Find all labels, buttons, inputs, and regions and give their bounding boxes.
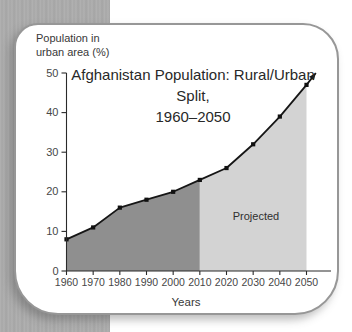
x-axis-title: Years xyxy=(66,296,306,308)
data-point-marker xyxy=(91,225,95,229)
x-tick-label: 2000 xyxy=(161,276,185,288)
chart-title-line2: 1960–2050 xyxy=(62,106,324,127)
x-tick-label: 2030 xyxy=(241,276,265,288)
data-point-marker xyxy=(171,190,175,194)
historical-area xyxy=(67,180,200,271)
y-tick-label: 10 xyxy=(46,225,58,237)
chart-title-line1: Afghanistan Population: Rural/Urban Spli… xyxy=(62,64,324,106)
scanned-figure-page: 0102030405019601970198019902000201020202… xyxy=(0,0,352,332)
x-tick-label: 2040 xyxy=(268,276,292,288)
data-point-marker xyxy=(144,198,148,202)
data-point-marker xyxy=(224,166,228,170)
x-tick-label: 1970 xyxy=(81,276,105,288)
y-tick-label: 40 xyxy=(46,106,58,118)
data-point-marker xyxy=(198,178,202,182)
x-tick-label: 2020 xyxy=(215,276,239,288)
projected-region-label: Projected xyxy=(206,210,306,222)
y-axis-title-line2: urban area (%) xyxy=(36,46,109,60)
chart-title: Afghanistan Population: Rural/Urban Spli… xyxy=(62,64,324,127)
x-tick-label: 1980 xyxy=(108,276,132,288)
y-tick-label: 30 xyxy=(46,146,58,158)
x-tick-label: 1990 xyxy=(135,276,159,288)
x-tick-label: 2050 xyxy=(295,276,319,288)
data-point-marker xyxy=(118,206,122,210)
y-tick-label: 50 xyxy=(46,67,58,79)
x-tick-label: 1960 xyxy=(55,276,79,288)
y-axis-title: Population in urban area (%) xyxy=(36,32,109,59)
x-tick-label: 2010 xyxy=(188,276,212,288)
y-axis-title-line1: Population in xyxy=(36,32,109,46)
y-tick-label: 0 xyxy=(52,265,58,277)
y-tick-label: 20 xyxy=(46,185,58,197)
data-point-marker xyxy=(251,142,255,146)
